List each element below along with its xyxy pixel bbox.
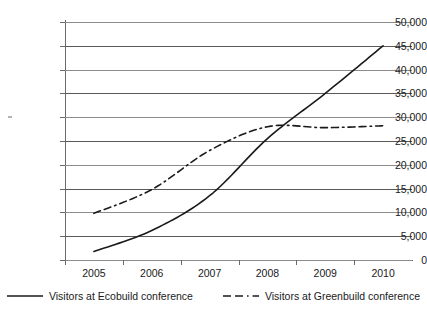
x-axis-tick-mark (239, 260, 240, 265)
gridline (65, 189, 412, 190)
gridline (65, 46, 412, 47)
gridline (65, 236, 412, 237)
y-axis-tick-mark (60, 189, 65, 190)
y-axis-tick-label: 45,000 (369, 41, 427, 52)
y-axis-tick-mark (60, 93, 65, 94)
y-axis-tick-label: 30,000 (369, 112, 427, 123)
y-axis-tick-mark (60, 22, 65, 23)
y-axis-tick-mark (60, 212, 65, 213)
legend-entry-greenbuild: Visitors at Greenbuild conference (223, 290, 420, 302)
gridline (65, 141, 412, 142)
x-axis-tick-mark (123, 260, 124, 265)
y-axis-tick-label: 50,000 (369, 17, 427, 28)
x-axis-tick-label: 2008 (238, 268, 296, 279)
gridline (65, 212, 412, 213)
legend-swatch-dashed-icon (223, 291, 259, 301)
x-axis-tick-mark (354, 260, 355, 265)
y-axis-tick-mark (60, 70, 65, 71)
y-axis-tick-label: 35,000 (369, 88, 427, 99)
x-axis-tick-label: 2010 (354, 268, 412, 279)
gridline (65, 22, 412, 23)
y-axis-tick-label: 5,000 (369, 231, 427, 242)
legend-entry-ecobuild: Visitors at Ecobuild conference (7, 290, 193, 302)
line-chart: 05,00010,00015,00020,00025,00030,00035,0… (0, 0, 427, 313)
legend-label-ecobuild: Visitors at Ecobuild conference (49, 290, 193, 302)
y-axis-tick-label: 40,000 (369, 65, 427, 76)
y-axis-tick-label: 10,000 (369, 207, 427, 218)
x-axis-tick-label: 2006 (123, 268, 181, 279)
x-axis-tick-label: 2009 (296, 268, 354, 279)
series-line-ecobuild (94, 46, 383, 252)
x-axis-tick-label: 2007 (181, 268, 239, 279)
y-axis-tick-mark (60, 165, 65, 166)
y-axis-tick-label: 15,000 (369, 184, 427, 195)
gridline (65, 70, 412, 71)
x-axis-tick-mark (181, 260, 182, 265)
scan-artifact-speck (8, 116, 12, 118)
y-axis-tick-label: 20,000 (369, 160, 427, 171)
legend-label-greenbuild: Visitors at Greenbuild conference (265, 290, 420, 302)
x-axis-tick-mark (65, 260, 66, 265)
y-axis-tick-mark (60, 46, 65, 47)
y-axis-tick-mark (60, 141, 65, 142)
chart-legend: Visitors at Ecobuild conference Visitors… (0, 286, 427, 306)
y-axis-tick-mark (60, 117, 65, 118)
y-axis-tick-label: 0 (369, 255, 427, 266)
legend-swatch-solid-icon (7, 291, 43, 301)
y-axis-tick-mark (60, 236, 65, 237)
gridline (65, 93, 412, 94)
series-line-greenbuild (94, 125, 383, 213)
gridline (65, 117, 412, 118)
x-axis-tick-label: 2005 (65, 268, 123, 279)
x-axis-tick-mark (296, 260, 297, 265)
gridline (65, 165, 412, 166)
y-axis-tick-label: 25,000 (369, 136, 427, 147)
